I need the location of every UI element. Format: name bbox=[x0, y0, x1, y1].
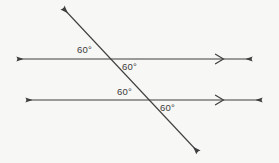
angle-label-bottom-right: 60° bbox=[160, 103, 175, 113]
angle-label-bottom-left: 60° bbox=[117, 87, 132, 97]
geometry-canvas bbox=[0, 0, 279, 163]
angle-label-top-left: 60° bbox=[77, 45, 92, 55]
geometry-figure: 60° 60° 60° 60° bbox=[0, 0, 279, 163]
transversal-line bbox=[63, 8, 198, 152]
angle-label-top-right: 60° bbox=[122, 62, 137, 72]
